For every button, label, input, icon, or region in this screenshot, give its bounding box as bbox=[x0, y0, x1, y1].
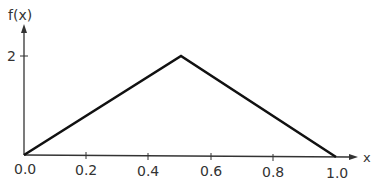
x-tick-label-0.8: 0.8 bbox=[262, 164, 284, 180]
x-axis-arrow-icon bbox=[349, 154, 358, 160]
chart: f(x) 2 x 0.0 0.2 0.4 0.6 0.8 1.0 bbox=[0, 0, 380, 186]
y-axis-label: f(x) bbox=[8, 7, 32, 23]
function-line bbox=[24, 56, 336, 157]
x-tick-label-1.0: 1.0 bbox=[326, 165, 348, 181]
x-tick-label-0.4: 0.4 bbox=[137, 163, 159, 179]
y-tick-label-2: 2 bbox=[7, 48, 16, 64]
x-tick-label-0.0: 0.0 bbox=[14, 161, 36, 177]
x-tick-label-0.2: 0.2 bbox=[75, 162, 97, 178]
x-axis bbox=[24, 155, 350, 157]
y-axis-arrow-icon bbox=[21, 24, 27, 33]
x-tick-label-0.6: 0.6 bbox=[200, 163, 222, 179]
x-axis-label: x bbox=[363, 150, 371, 165]
